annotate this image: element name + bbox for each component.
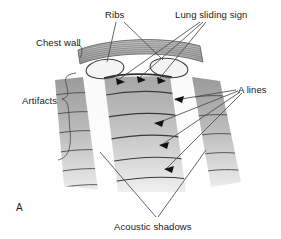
ultrasound-schematic-svg — [0, 0, 281, 239]
label-lung-sliding-sign: Lung sliding sign — [175, 10, 247, 20]
panel-letter: A — [16, 202, 23, 213]
lung-ultrasound-figure: Ribs Lung sliding sign Chest wall Artifa… — [0, 0, 281, 239]
label-chest-wall: Chest wall — [36, 38, 81, 48]
label-artifacts: Artifacts — [22, 96, 57, 106]
label-a-lines: A lines — [238, 85, 267, 95]
label-acoustic-shadows: Acoustic shadows — [114, 222, 192, 232]
label-ribs: Ribs — [105, 10, 124, 20]
